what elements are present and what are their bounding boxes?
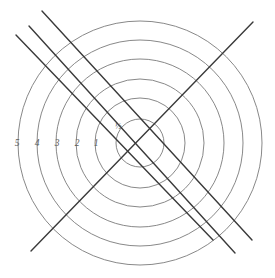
contour-label-half: ½: [115, 121, 122, 131]
contour-label-group: 5 4 3 2 1 ½: [15, 121, 122, 148]
contour-ring-1: [95, 98, 185, 188]
contour-label-3: 3: [54, 138, 60, 148]
ascending-line-1: [31, 22, 253, 251]
concentric-circles-diagram: 5 4 3 2 1 ½: [0, 0, 275, 278]
contour-label-5: 5: [15, 138, 20, 148]
descending-line-3: [42, 11, 252, 240]
figure-container: 5 4 3 2 1 ½: [0, 0, 275, 278]
contour-ring-4: [37, 40, 243, 246]
descending-line-1: [16, 35, 213, 240]
contour-ring-half: [116, 119, 164, 167]
contour-label-4: 4: [35, 138, 40, 148]
contour-label-1: 1: [94, 138, 99, 148]
contour-label-2: 2: [75, 138, 80, 148]
diagonal-line-group: [16, 11, 253, 253]
